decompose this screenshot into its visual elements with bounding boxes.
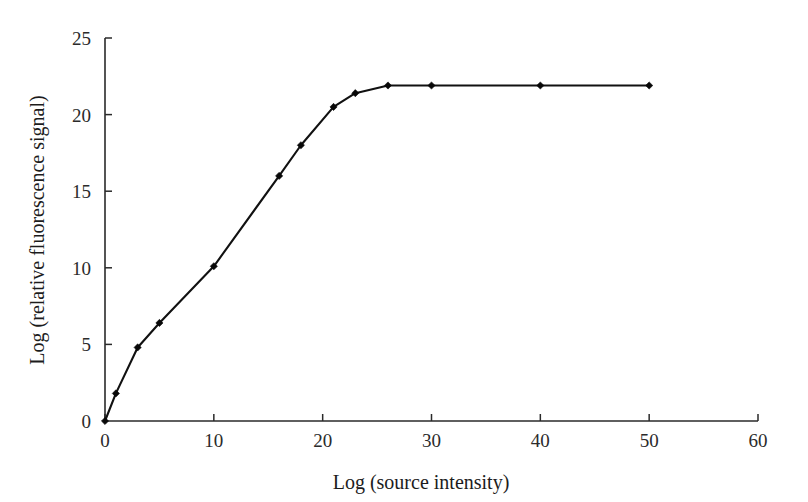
- y-tick-label: 0: [82, 411, 92, 432]
- x-tick-label: 50: [640, 430, 659, 451]
- x-axis-title: Log (source intensity): [333, 471, 510, 494]
- x-tick-label: 30: [422, 430, 441, 451]
- y-tick-label: 20: [72, 105, 91, 126]
- x-tick-label: 20: [313, 430, 332, 451]
- chart-canvas: 0102030405060 0510152025 Log (source int…: [0, 0, 808, 502]
- figure-background: [0, 0, 808, 502]
- y-tick-label: 5: [82, 334, 92, 355]
- x-tick-label: 40: [531, 430, 550, 451]
- y-tick-label: 15: [72, 181, 91, 202]
- y-tick-label: 25: [72, 28, 91, 49]
- x-tick-label: 60: [749, 430, 768, 451]
- x-tick-label: 0: [100, 430, 110, 451]
- y-axis-title: Log (relative fluorescence signal): [26, 95, 49, 364]
- y-tick-label: 10: [72, 258, 91, 279]
- x-tick-label: 10: [204, 430, 223, 451]
- chart-figure: 0102030405060 0510152025 Log (source int…: [0, 0, 808, 502]
